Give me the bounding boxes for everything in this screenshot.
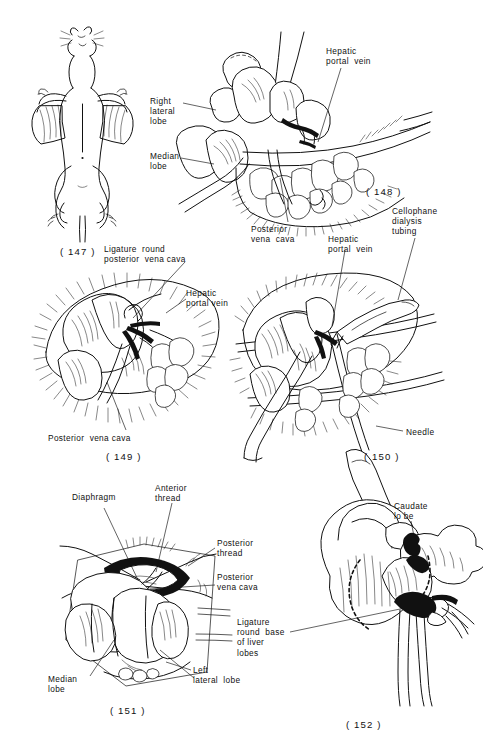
label-caudate-lobe-152: Caudate lo be (394, 501, 428, 521)
illustration-plate: Hepatic portal vein Right lateral lobe M… (0, 0, 483, 749)
label-posterior-thread-151: Posterior thread (217, 538, 253, 558)
label-anterior-thread-151: Anterior thread (155, 483, 187, 503)
figure-number-152: ( 152 ) (346, 719, 381, 730)
label-median-lobe-151: Median lobe (48, 674, 77, 694)
label-hepatic-portal-vein-148: Hepatic portal vein (326, 46, 371, 66)
label-posterior-vena-cava-148: Posterior vena cava (251, 224, 295, 244)
figure-number-149: ( 149 ) (106, 451, 141, 462)
label-hepatic-portal-vein-149: Hepatic portal vein (186, 288, 228, 308)
label-left-lateral-lobe-151: Left lateral lobe (193, 665, 240, 685)
label-posterior-vena-cava-149: Posterior vena cava (48, 433, 131, 443)
label-needle-150: Needle (406, 427, 434, 437)
figure-152-isolated-liver (321, 500, 483, 706)
label-ligature-round-posterior-vena-cava-149: Ligature round posterior vena cava (104, 244, 186, 264)
label-ligature-round-base-of-liver-lobes-151: Ligature round base of liver lobes (237, 617, 285, 658)
figure-number-148: ( 148 ) (366, 186, 401, 197)
label-cellophane-dialysis-tubing-150: Cellophane dialysis tubing (392, 206, 437, 237)
figure-number-147: ( 147 ) (60, 246, 95, 257)
label-right-lateral-lobe-148: Right lateral lobe (150, 96, 175, 127)
figure-151-diaphragm-threads (60, 537, 232, 686)
figure-147-rat (32, 27, 133, 242)
label-diaphragm-151: Diaphragm (72, 492, 116, 502)
label-hepatic-portal-vein-150: Hepatic portal vein (328, 234, 373, 254)
figure-number-150: ( 150 ) (364, 451, 399, 462)
label-posterior-vena-cava-151: Posterior vena cava (217, 572, 258, 592)
label-median-lobe-148: Median lobe (150, 151, 179, 171)
figure-number-151: ( 151 ) (110, 705, 145, 716)
